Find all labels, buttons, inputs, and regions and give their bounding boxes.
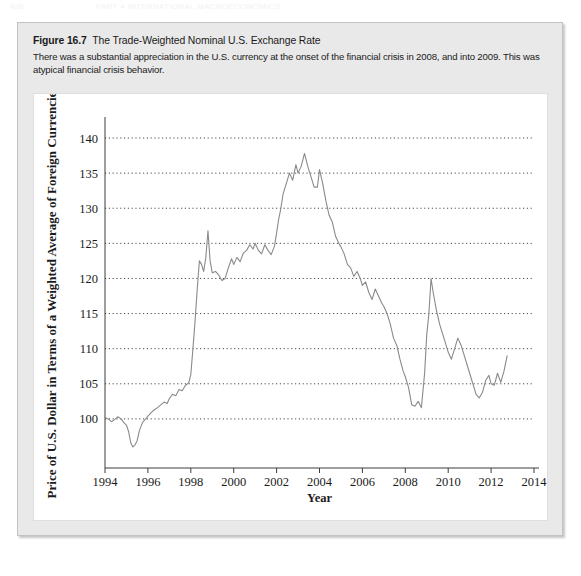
running-title: PART 4 INTERNATIONAL MACROECONOMICS [96,0,280,14]
y-tick-label-100: 100 [79,412,98,426]
x-axis-title: Year [307,491,332,505]
y-tick-label-110: 110 [80,342,98,356]
x-tick-label-2014: 2014 [522,475,548,489]
line-chart: 1001051101151201251301351401994199619982… [34,94,547,520]
y-tick-label-125: 125 [79,237,98,251]
x-tick-label-2012: 2012 [479,475,504,489]
x-tick-label-1996: 1996 [135,475,160,489]
figure-description: There was a substantial appreciation in … [33,50,545,76]
x-tick-label-2004: 2004 [307,475,333,489]
y-tick-label-105: 105 [79,377,98,391]
y-tick-label-120: 120 [79,272,98,286]
x-tick-label-2006: 2006 [350,475,375,489]
page-running-header: 426 PART 4 INTERNATIONAL MACROECONOMICS [0,0,581,14]
figure-title: The Trade-Weighted Nominal U.S. Exchange… [92,35,320,46]
figure-label: Figure 16.7 [33,35,87,46]
figure-caption-block: Figure 16.7 The Trade-Weighted Nominal U… [33,34,545,76]
x-tick-label-1998: 1998 [178,475,203,489]
y-tick-label-135: 135 [79,167,98,181]
figure-container: Figure 16.7 The Trade-Weighted Nominal U… [17,22,563,536]
x-tick-label-1994: 1994 [93,475,119,489]
y-tick-label-115: 115 [80,307,98,321]
x-tick-label-2002: 2002 [264,475,289,489]
y-tick-label-140: 140 [79,132,98,146]
x-tick-label-2000: 2000 [221,475,246,489]
figure-caption-title: Figure 16.7 The Trade-Weighted Nominal U… [33,34,545,48]
y-axis-title: Price of U.S. Dollar in Terms of a Weigh… [44,94,59,498]
page-number: 426 [10,0,23,14]
x-tick-label-2008: 2008 [393,475,418,489]
x-tick-label-2010: 2010 [436,475,461,489]
y-tick-label-130: 130 [79,202,98,216]
chart-plot-panel: 1001051101151201251301351401994199619982… [33,93,548,521]
data-series-line [105,153,507,447]
